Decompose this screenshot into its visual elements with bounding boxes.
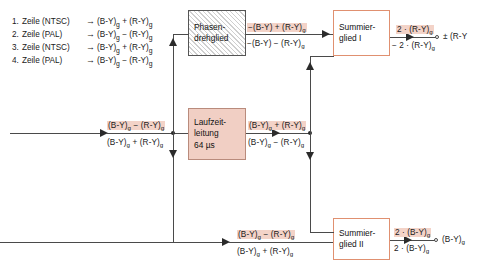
block-laufzeitleitung[interactable]: Laufzeit- leitung 64 µs <box>188 108 246 160</box>
arrowhead-down-left <box>169 150 177 158</box>
label-input-bottom: (B-Y)g + (R-Y)g <box>107 138 163 148</box>
label-summer2-in-top: (B-Y)g − (R-Y)g <box>237 230 295 240</box>
block-laufzeitleitung-line2: leitung <box>194 128 245 140</box>
wire-into-summer2-upper <box>310 232 334 233</box>
label-phase-out-top: −(B-Y) + (R-Y)g <box>247 23 307 33</box>
arrow-right-icon: → <box>84 55 97 65</box>
label-summer2-out-bottom: 2 · (B-Y)g <box>394 244 429 254</box>
block-summierglied-ii[interactable]: Summier- glied II <box>333 218 390 260</box>
label-summer2-result: (B-Y)g <box>442 235 465 245</box>
legend-expression: (B-Y)g − (R-Y)g <box>97 30 153 41</box>
label-phase-out-bottom: −(B-Y) − (R-Y)g <box>247 39 305 49</box>
arrowhead-up-left <box>169 38 177 46</box>
arrowhead-into-summer1 <box>322 30 330 38</box>
wire-phase-to-summer1 <box>246 34 333 35</box>
wire-input-main <box>10 133 106 134</box>
block-laufzeitleitung-line3: 64 µs <box>194 140 245 152</box>
wire-input-to-delay <box>106 133 188 134</box>
block-phasendrehglied-line2: drehglied <box>194 33 245 45</box>
block-summierglied-i-line2: glied I <box>339 33 389 45</box>
block-summierglied-ii-line2: glied II <box>339 239 389 251</box>
block-laufzeitleitung-line1: Laufzeit- <box>194 117 245 129</box>
legend-name: Zeile (PAL) <box>22 56 84 65</box>
label-input-top: (B-Y)g − (R-Y)g <box>107 121 165 131</box>
legend-name: Zeile (NTSC) <box>22 17 84 26</box>
label-summer1-out-bottom: − 2 · (R-Y)g <box>392 41 435 51</box>
label-delay-out-bottom: (B-Y)g − (R-Y)g <box>248 138 304 148</box>
legend-number: 2. <box>12 30 22 39</box>
legend-row: 4. Zeile (PAL) → (B-Y)g − (R-Y)g <box>12 55 153 68</box>
label-summer1-out-top: 2 · (R-Y)g <box>396 25 434 35</box>
wire-trunk-down-right <box>310 133 311 233</box>
block-phasendrehglied-line1: Phasen- <box>194 22 245 34</box>
legend-row: 1. Zeile (NTSC) → (B-Y)g + (R-Y)g <box>12 16 153 29</box>
block-summierglied-i-line1: Summier- <box>339 22 389 34</box>
legend-number: 1. <box>12 17 22 26</box>
wire-into-summer1-lower <box>310 56 334 57</box>
output-terminal-r-y <box>435 35 439 39</box>
arrow-right-icon: → <box>84 16 97 26</box>
block-summierglied-ii-line1: Summier- <box>339 228 389 240</box>
legend-number: 3. <box>12 43 22 52</box>
label-delay-out-top: (B-Y)g + (R-Y)g <box>248 121 306 131</box>
output-terminal-b-y <box>434 238 438 242</box>
arrowhead-up-right <box>306 62 314 70</box>
wire-bottom-left-branch <box>173 242 228 243</box>
wire-trunk-up-left <box>173 34 174 133</box>
block-phasendrehglied[interactable]: Phasen- drehglied <box>188 10 246 56</box>
wire-summer1-output <box>390 37 438 38</box>
wire-bottom-rail <box>0 242 173 243</box>
signal-legend-list: 1. Zeile (NTSC) → (B-Y)g + (R-Y)g 2. Zei… <box>12 16 153 68</box>
legend-name: Zeile (PAL) <box>22 30 84 39</box>
legend-expression: (B-Y)g + (R-Y)g <box>97 17 153 28</box>
legend-name: Zeile (NTSC) <box>22 43 84 52</box>
wire-to-summierglied-ii <box>228 242 333 243</box>
legend-number: 4. <box>12 56 22 65</box>
block-summierglied-i[interactable]: Summier- glied I <box>333 10 390 56</box>
legend-row: 2. Zeile (PAL) → (B-Y)g − (R-Y)g <box>12 29 153 42</box>
label-summer2-in-bottom: (B-Y)g + (R-Y)g <box>237 247 293 257</box>
legend-row: 3. Zeile (NTSC) → (B-Y)g + (R-Y)g <box>12 42 153 55</box>
legend-expression: (B-Y)g + (R-Y)g <box>97 43 153 54</box>
legend-expression: (B-Y)g − (R-Y)g <box>97 56 153 67</box>
label-summer2-out-top: 2 · (B-Y)g <box>394 228 431 238</box>
arrow-right-icon: → <box>84 42 97 52</box>
wire-into-phasendrehglied <box>173 34 189 35</box>
arrowhead-down-right <box>306 152 314 160</box>
label-summer1-result: ± (R-Y <box>443 32 467 42</box>
arrow-right-icon: → <box>84 29 97 39</box>
block-diagram-canvas: 1. Zeile (NTSC) → (B-Y)g + (R-Y)g 2. Zei… <box>0 0 478 268</box>
wire-summer2-output <box>390 240 437 241</box>
